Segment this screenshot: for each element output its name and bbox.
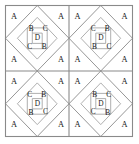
tile-bottom-right-corner-a-br: A xyxy=(121,120,127,129)
tile-top-right-corner-a-bl: A xyxy=(74,55,80,64)
tile-top-right-corner-a-br: A xyxy=(121,55,127,64)
tile-bottom-left-corner-a-tr: A xyxy=(58,77,64,86)
tile-bottom-left-label-lower-left: B xyxy=(28,108,33,117)
tile-top-left-corner-a-tr: A xyxy=(58,12,64,21)
tile-top-left-label-lower-right: B xyxy=(42,42,47,51)
tiling-figure: A A A A B C D C B A A A A C B D B xyxy=(0,0,139,144)
tile-bottom-right-label-upper-left: B xyxy=(92,90,97,99)
tile-bottom-right-corner-a-bl: A xyxy=(74,120,80,129)
tile-top-left-label-lower-left: C xyxy=(27,42,32,51)
tile-bottom-left-label-upper-right: B xyxy=(41,90,46,99)
tile-bottom-left-corner-a-br: A xyxy=(58,120,64,129)
tile-bottom-right-corner-a-tl: A xyxy=(74,77,80,86)
tile-bottom-left-corner-a-bl: A xyxy=(11,120,17,129)
tile-top-right-label-center: D xyxy=(98,33,104,42)
tiling-diagram: A A A A B C D C B A A A A C B D B xyxy=(0,0,139,144)
tile-top-left-label-center: D xyxy=(35,33,41,42)
tile-top-left-corner-a-br: A xyxy=(58,55,64,64)
tile-top-right-corner-a-tl: A xyxy=(74,12,80,21)
tile-bottom-right-corner-a-tr: A xyxy=(121,77,127,86)
tile-top-left-label-upper-right: C xyxy=(43,24,48,33)
tile-top-left-label-upper-left: B xyxy=(29,24,34,33)
tile-bottom-left-label-center: D xyxy=(35,99,41,108)
tile-bottom-right-label-lower-right: B xyxy=(105,108,110,117)
tile-top-right-label-upper-right: B xyxy=(105,24,110,33)
tile-bottom-left-label-upper-left: C xyxy=(27,90,32,99)
tile-top-right-label-lower-left: B xyxy=(92,42,97,51)
tile-bottom-right-label-lower-left: C xyxy=(91,107,96,116)
tile-bottom-left-label-lower-right: C xyxy=(43,107,48,116)
tile-top-right-corner-a-tr: A xyxy=(121,12,127,21)
tile-top-right-label-upper-left: C xyxy=(91,24,96,33)
tile-bottom-left-corner-a-tl: A xyxy=(11,77,17,86)
tile-top-right-label-lower-right: C xyxy=(106,42,111,51)
tile-bottom-right-label-upper-right: C xyxy=(106,90,111,99)
tile-bottom-right-label-center: D xyxy=(98,99,104,108)
tile-top-left-corner-a-tl: A xyxy=(11,12,17,21)
tile-top-left-corner-a-bl: A xyxy=(11,55,17,64)
